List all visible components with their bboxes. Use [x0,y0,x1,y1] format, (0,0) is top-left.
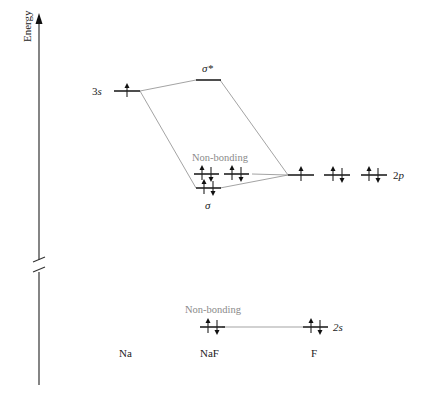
spin-up-arrow-icon [299,166,304,171]
spin-down-arrow-icon [239,177,244,182]
spin-down-arrow-icon [211,191,216,196]
f-2p-label: 2p [393,169,405,181]
correlation-lines [140,80,303,327]
nonbonding-2p-level-1 [194,165,219,182]
column-label-naf: NaF [200,347,219,359]
sigma-level: σ [196,179,221,211]
spin-down-arrow-icon [376,178,381,183]
na-3s-level: 3s [92,83,140,97]
axis-arrowhead-icon [36,13,43,24]
spin-up-arrow-icon [125,83,130,88]
sigma-label: σ [205,199,211,211]
na-3s-label: 3s [92,85,102,97]
spin-up-arrow-icon [206,318,211,323]
f-2s-level: 2s [303,318,343,335]
spin-up-arrow-icon [367,166,372,171]
nonbonding-2s-level [200,318,225,335]
spin-down-arrow-icon [215,330,220,335]
sigma-star-level: σ* [196,62,221,80]
f-2p-levels: 2p [288,166,405,183]
f-2s-label: 2s [333,321,343,333]
energy-axis-label: Energy [21,10,33,42]
column-label-f: F [311,347,317,359]
sigma-star-label: σ* [202,62,213,74]
spin-up-arrow-icon [200,165,205,170]
mo-diagram: Energy 3s σ* Non-bonding [0,0,423,404]
spin-down-arrow-icon [340,178,345,183]
spin-up-arrow-icon [331,166,336,171]
nonbonding-2p-label: Non-bonding [192,152,249,163]
axis-break-mark [33,267,45,272]
spin-up-arrow-icon [230,165,235,170]
spin-down-arrow-icon [318,330,323,335]
column-label-na: Na [119,347,132,359]
nonbonding-2p-level-2 [224,165,249,182]
nonbonding-2s-label: Non-bonding [185,304,242,315]
energy-axis: Energy [21,10,45,385]
spin-up-arrow-icon [309,318,314,323]
